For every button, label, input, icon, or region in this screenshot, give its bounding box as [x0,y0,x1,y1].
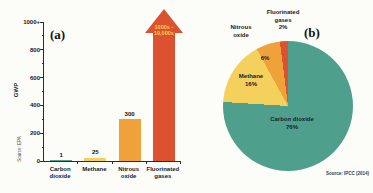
y-axis-minor-tick [42,119,45,120]
x-axis-tick [180,161,181,164]
pie-label-methane: Methane 16% [226,73,276,88]
y-axis-minor-tick [42,63,45,64]
bar-value-label: 300 [115,111,145,117]
y-axis-tick-label: 400 [16,102,40,108]
y-axis-minor-tick [42,91,45,92]
y-axis-tick-label: 0 [16,158,40,164]
y-axis-minor-tick [42,35,45,36]
y-axis-tick-label: 200 [16,130,40,136]
fluorinated-gases-arrow [153,33,175,161]
bar-value-label: 1 [46,152,76,158]
x-axis-labels: Carbon dioxideMethaneNitrous oxideFluori… [43,166,180,180]
pie-label-carbon-dioxide: Carbon dioxide 76% [262,116,322,131]
pie-label-nitrous-oxide: Nitrous oxide [226,24,256,39]
y-axis-tick [40,161,44,162]
y-axis-tick [40,77,44,78]
arrow-value-label: 1000s - 10,000s [148,24,180,37]
y-axis-tick [40,22,44,23]
pie-label-text: Nitrous oxide [231,24,252,38]
x-category-label: Methane [77,166,111,180]
y-axis-tick-label: 600 [16,75,40,81]
y-axis-minor-tick [42,147,45,148]
pie-label-percent: 6% [261,55,270,61]
x-axis-tick [77,161,78,164]
bar-chart-panel: (a) GWP Source: EPA 02004006008001000+12… [0,0,186,193]
bar-methane [84,158,106,161]
bar-plot-area: 02004006008001000+1253001000s - 10,000s [43,22,181,162]
y-axis-tick [40,133,44,134]
pie-label-nitrous-oxide-percent: 6% [255,55,275,63]
figure-canvas: (a) GWP Source: EPA 02004006008001000+12… [0,0,373,193]
pie-label-fluorinated-gases: Fluorinated gases 2% [263,9,303,32]
pie-chart-panel: (b) Fluorinated gases 2% Nitrous oxide 6… [186,0,373,193]
bar-carbon-dioxide [50,160,72,161]
pie-label-percent: 2% [279,24,288,30]
y-axis-tick-label: 1000+ [16,19,40,25]
pie-graphic [223,41,353,171]
panel-b-label: (b) [304,25,320,41]
pie-label-text: Fluorinated gases [267,9,300,23]
pie-chart-source: Source: IPCC (2014) [326,171,369,176]
x-axis-tick [112,161,113,164]
y-axis-tick [40,105,44,106]
y-axis-tick [40,49,44,50]
bar-nitrous-oxide [119,119,141,161]
x-category-label: Carbon dioxide [43,166,77,180]
y-axis-tick-label: 800 [16,47,40,53]
x-category-label: Nitrous oxide [112,166,146,180]
pie-label-percent: 76% [286,124,298,130]
x-axis-tick [146,161,147,164]
pie-label-text: Methane [239,73,263,79]
pie-label-text: Carbon dioxide [270,116,314,122]
bar-value-label: 25 [80,149,110,155]
pie-label-percent: 16% [245,81,257,87]
x-category-label: Fluorinated gases [146,166,180,180]
